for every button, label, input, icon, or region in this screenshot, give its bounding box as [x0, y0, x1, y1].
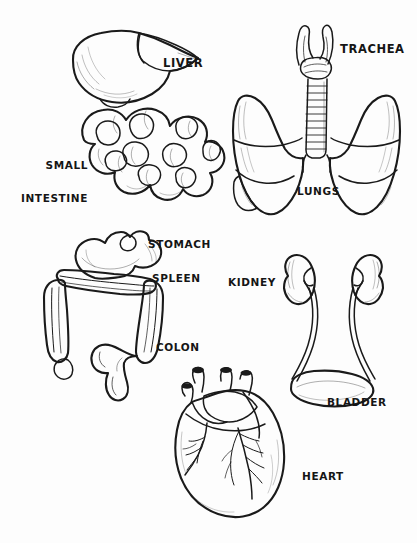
label-lungs: LUNGS [297, 186, 340, 197]
figure-digestive [44, 231, 163, 400]
label-kidney: KIDNEY [228, 277, 276, 288]
figure-urinary [284, 255, 383, 406]
label-spleen: SPLEEN [152, 273, 201, 284]
label-small-intestine-line2: INTESTINE [8, 193, 88, 204]
figure-heart [175, 367, 284, 517]
label-small-intestine: SMALL INTESTINE [8, 138, 88, 215]
organs-artwork [0, 0, 417, 543]
label-small-intestine-line1: SMALL [8, 160, 88, 171]
label-bladder: BLADDER [327, 397, 387, 408]
figure-small-intestine [82, 109, 224, 200]
label-liver: LIVER [163, 57, 203, 69]
label-stomach: STOMACH [148, 239, 211, 250]
label-trachea: TRACHEA [340, 43, 405, 55]
illustration-plate: LIVER SMALL INTESTINE TRACHEA LUNGS STOM… [0, 0, 417, 543]
label-heart: HEART [302, 471, 344, 482]
label-colon: COLON [156, 342, 200, 353]
